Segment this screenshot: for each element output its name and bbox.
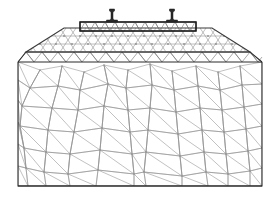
fem-mesh-figure: Finite element mesh of ballasted railway… bbox=[0, 0, 278, 202]
sub-ballast-layer bbox=[18, 52, 262, 62]
sub-ballast-top-line bbox=[18, 52, 262, 62]
subgrade-mesh-edges bbox=[18, 62, 262, 186]
slab-mesh bbox=[80, 22, 196, 31]
ballast-embankment bbox=[20, 28, 266, 52]
sub-ballast-mesh bbox=[18, 52, 262, 62]
subgrade-soil-block bbox=[18, 62, 262, 186]
sleeper-slab bbox=[80, 22, 196, 31]
embankment-mesh bbox=[20, 28, 266, 52]
rail-right bbox=[167, 9, 178, 22]
rail-left bbox=[107, 9, 118, 22]
subgrade-outline bbox=[18, 62, 262, 186]
